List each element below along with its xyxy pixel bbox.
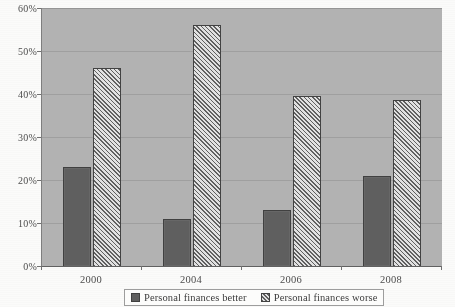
y-tick-label-60%: 60% (3, 3, 37, 14)
y-tick-label-30%: 30% (3, 132, 37, 143)
bar-2004-series1 (163, 219, 191, 266)
gridline-50% (42, 51, 442, 52)
y-tick-label-10%: 10% (3, 218, 37, 229)
x-tick-label-2006: 2006 (280, 274, 302, 285)
y-axis: 0%10%20%30%40%50%60% (0, 8, 37, 266)
legend-item-worse: Personal finances worse (261, 292, 378, 303)
x-tick-mark-2008 (441, 266, 442, 270)
legend-label: Personal finances better (144, 292, 247, 303)
bar-2008-series2 (393, 100, 421, 266)
gridline-60% (42, 8, 442, 9)
y-tick-label-40%: 40% (3, 89, 37, 100)
chart-legend: Personal finances betterPersonal finance… (124, 289, 384, 306)
bar-2006-series1 (263, 210, 291, 266)
bar-2006-series2 (293, 96, 321, 266)
plot-area (41, 8, 442, 267)
legend-swatch-icon-worse (261, 293, 270, 302)
legend-item-better: Personal finances better (131, 292, 247, 303)
x-tick-mark-2006 (341, 266, 342, 270)
chart-page: 0%10%20%30%40%50%60% 2000200420062008 Pe… (0, 0, 455, 307)
bar-2008-series1 (363, 176, 391, 266)
y-tick-label-0%: 0% (3, 261, 37, 272)
legend-label: Personal finances worse (274, 292, 378, 303)
bar-2000-series1 (63, 167, 91, 266)
x-tick-mark-2000 (141, 266, 142, 270)
y-tick-label-20%: 20% (3, 175, 37, 186)
bar-2000-series2 (93, 68, 121, 266)
x-tick-label-2004: 2004 (180, 274, 202, 285)
x-tick-mark-origin (41, 266, 42, 270)
legend-swatch-icon-better (131, 293, 140, 302)
x-tick-mark-2004 (241, 266, 242, 270)
x-tick-label-2008: 2008 (380, 274, 402, 285)
x-tick-label-2000: 2000 (80, 274, 102, 285)
x-axis: 2000200420062008 (41, 266, 441, 288)
y-tick-label-50%: 50% (3, 46, 37, 57)
bar-2004-series2 (193, 25, 221, 266)
